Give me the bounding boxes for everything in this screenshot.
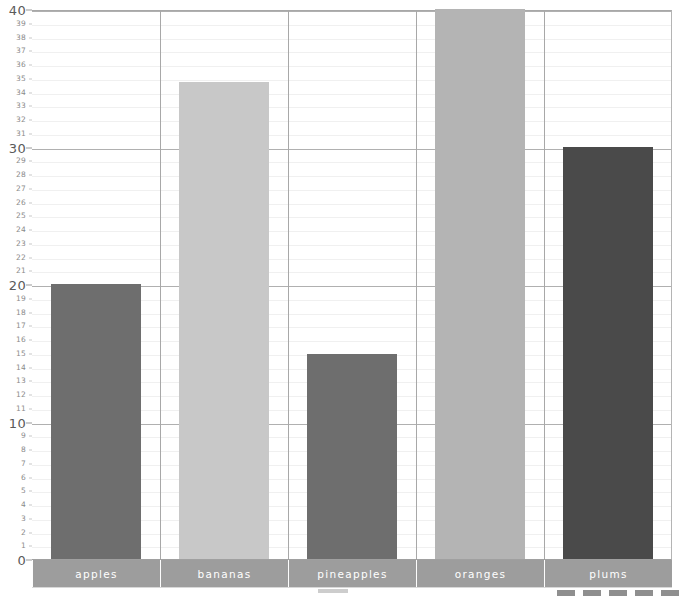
category-cell-apples[interactable]: apples — [32, 560, 160, 587]
y-axis: 0123456789101112131415161718192021222324… — [0, 0, 32, 564]
bar-pineapples[interactable] — [307, 354, 397, 559]
gridline-minor — [32, 107, 671, 108]
category-label: apples — [75, 568, 117, 580]
gridline-minor — [32, 121, 671, 122]
gridline-minor — [32, 135, 671, 136]
y-tick-label: 2 — [21, 529, 26, 537]
dash-segment — [583, 590, 601, 596]
y-tick-label: 36 — [16, 61, 26, 69]
bar-plums[interactable] — [563, 147, 653, 560]
category-cell-oranges[interactable]: oranges — [416, 560, 544, 587]
y-tick-label: 10 — [9, 416, 26, 429]
bar-bananas[interactable] — [179, 82, 269, 559]
y-tick-label: 27 — [16, 185, 26, 193]
plot-inner — [32, 11, 671, 559]
y-tick-label: 38 — [16, 34, 26, 42]
y-tick-label: 37 — [16, 48, 26, 56]
y-tick-label: 34 — [16, 89, 26, 97]
y-tick-label: 13 — [16, 378, 26, 386]
category-separator — [160, 11, 161, 559]
category-cell-plums[interactable]: plums — [544, 560, 672, 587]
y-tick-label: 30 — [9, 141, 26, 154]
y-tick-label: 12 — [16, 391, 26, 399]
bar-chart: 0123456789101112131415161718192021222324… — [0, 0, 691, 599]
category-label: oranges — [455, 568, 507, 580]
y-tick-label: 18 — [16, 309, 26, 317]
y-tick-label: 23 — [16, 240, 26, 248]
y-tick-label: 0 — [17, 554, 26, 567]
bar-oranges[interactable] — [435, 9, 525, 559]
y-tick-label: 9 — [21, 433, 26, 441]
y-tick-label: 31 — [16, 130, 26, 138]
category-label: bananas — [198, 568, 252, 580]
y-tick-label: 14 — [16, 364, 26, 372]
y-tick-label: 22 — [16, 254, 26, 262]
y-tick-label: 4 — [21, 501, 26, 509]
y-tick-label: 35 — [16, 75, 26, 83]
category-label: plums — [589, 568, 627, 580]
y-tick-label: 33 — [16, 103, 26, 111]
gridline-minor — [32, 94, 671, 95]
gridline-minor — [32, 25, 671, 26]
gridline-minor — [32, 39, 671, 40]
y-tick-label: 25 — [16, 213, 26, 221]
dash-segment — [661, 590, 679, 596]
y-tick-label: 17 — [16, 323, 26, 331]
y-tick-label: 39 — [16, 20, 26, 28]
category-cell-pineapples[interactable]: pineapples — [288, 560, 416, 587]
category-separator — [416, 11, 417, 559]
y-tick-label: 26 — [16, 199, 26, 207]
category-separator — [544, 11, 545, 559]
category-band-underline — [32, 587, 672, 588]
y-tick-label: 7 — [21, 460, 26, 468]
y-tick-label: 20 — [9, 279, 26, 292]
dash-segment — [635, 590, 653, 596]
y-tick-label: 28 — [16, 171, 26, 179]
y-tick-label: 11 — [16, 405, 26, 413]
gridline-minor — [32, 66, 671, 67]
category-separator — [288, 11, 289, 559]
y-tick-label: 40 — [9, 4, 26, 17]
y-tick-label: 3 — [21, 515, 26, 523]
bottom-scroll-artifact — [318, 589, 348, 593]
y-tick-label: 16 — [16, 336, 26, 344]
bar-apples[interactable] — [51, 284, 141, 559]
y-tick-label: 8 — [21, 446, 26, 454]
y-tick-label: 19 — [16, 295, 26, 303]
bottom-dashed-artifact — [557, 590, 691, 596]
category-cell-bananas[interactable]: bananas — [160, 560, 288, 587]
y-tick-label: 5 — [21, 488, 26, 496]
y-tick-label: 32 — [16, 116, 26, 124]
y-tick-label: 29 — [16, 158, 26, 166]
gridline-minor — [32, 52, 671, 53]
gridline-minor — [32, 80, 671, 81]
dash-segment — [609, 590, 627, 596]
y-tick-label: 15 — [16, 350, 26, 358]
dash-segment — [557, 590, 575, 596]
category-label: pineapples — [317, 568, 387, 580]
plot-area — [32, 10, 672, 560]
x-axis-category-band: applesbananaspineapplesorangesplums — [32, 560, 672, 587]
gridline-major — [32, 11, 671, 12]
y-tick-label: 21 — [16, 268, 26, 276]
y-tick-label: 1 — [21, 543, 26, 551]
y-tick-label: 6 — [21, 474, 26, 482]
y-tick-label: 24 — [16, 226, 26, 234]
